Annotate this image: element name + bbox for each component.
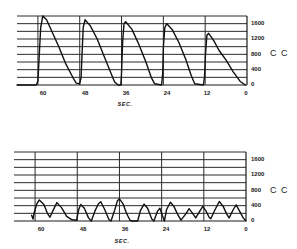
y-tick-800: 800	[251, 187, 262, 193]
top-volume-trace	[17, 16, 245, 85]
x-tick-0: 0	[244, 90, 248, 96]
y-tick-0: 0	[251, 217, 255, 223]
y-tick-400: 400	[251, 66, 262, 72]
bottom-x-tick-labels: 60 48 36 24 12 0	[38, 226, 249, 232]
top-x-tick-labels: 60 48 36 24 12 0	[40, 90, 249, 96]
bottom-grid	[14, 152, 246, 221]
x-tick-12: 12	[204, 226, 211, 232]
x-tick-24: 24	[163, 226, 170, 232]
top-grid	[17, 16, 247, 85]
top-y-tick-labels: 1600 1200 800 400 0	[251, 20, 265, 87]
x-tick-24: 24	[164, 90, 171, 96]
y-unit-label: C C	[270, 185, 289, 195]
x-axis-label: SEC.	[117, 101, 132, 107]
bottom-volume-chart: 1600 1200 800 400 0 C C 60 48 36 24 12 0…	[0, 125, 297, 249]
y-tick-800: 800	[251, 51, 262, 57]
x-tick-60: 60	[38, 226, 45, 232]
x-tick-12: 12	[204, 90, 211, 96]
x-tick-36: 36	[123, 90, 130, 96]
x-axis-label: SEC.	[114, 238, 129, 244]
bottom-volume-trace	[32, 199, 246, 221]
top-volume-chart: 1600 1200 800 400 0 C C 60 48 36 24 12 0…	[0, 0, 297, 125]
x-tick-48: 48	[80, 226, 87, 232]
x-tick-60: 60	[40, 90, 47, 96]
y-tick-1200: 1200	[251, 171, 265, 177]
y-tick-1600: 1600	[251, 20, 265, 26]
y-tick-0: 0	[251, 81, 255, 87]
x-tick-36: 36	[122, 226, 129, 232]
bottom-y-tick-labels: 1600 1200 800 400 0	[251, 156, 265, 223]
y-tick-1200: 1200	[251, 35, 265, 41]
y-tick-400: 400	[251, 202, 262, 208]
x-tick-48: 48	[82, 90, 89, 96]
y-unit-label: C C	[270, 48, 289, 58]
x-tick-0: 0	[244, 226, 248, 232]
y-tick-1600: 1600	[251, 156, 265, 162]
